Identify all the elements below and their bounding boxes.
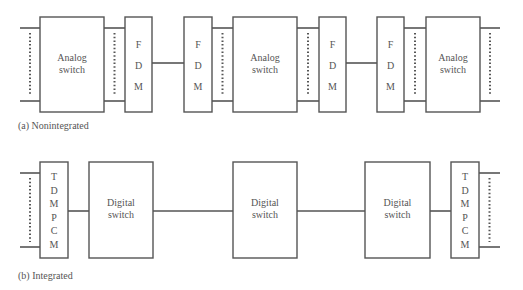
mux-letter: P <box>51 212 57 223</box>
mux-letter: T <box>51 171 57 182</box>
switch-label: Analog <box>438 52 467 63</box>
mux-letter: D <box>135 60 142 71</box>
mux-letter: M <box>461 239 470 250</box>
switch-label: Digital <box>384 197 412 208</box>
switch-block: Digitalswitch <box>365 162 430 258</box>
mux-letter: F <box>330 39 336 50</box>
mux-block: FDM <box>125 17 152 112</box>
mux-letter: D <box>387 60 394 71</box>
switch-block: Analogswitch <box>426 17 480 112</box>
mux-letter: C <box>462 225 469 236</box>
switch-label: switch <box>252 209 278 220</box>
mux-letter: D <box>50 185 57 196</box>
mux-block: TDMPCM <box>451 162 479 258</box>
nonintegrated-diagram: AnalogswitchFDMFDMAnalogswitchFDMFDMAnal… <box>20 17 500 112</box>
mux-block: FDM <box>319 17 346 112</box>
mux-letter: D <box>461 185 468 196</box>
mux-letter: D <box>329 60 336 71</box>
mux-letter: F <box>388 39 394 50</box>
caption-nonintegrated: (a) Nonintegrated <box>18 120 89 132</box>
mux-letter: M <box>50 239 59 250</box>
switch-label: switch <box>108 209 134 220</box>
mux-letter: C <box>51 225 58 236</box>
network-diagram: AnalogswitchFDMFDMAnalogswitchFDMFDMAnal… <box>0 0 523 290</box>
mux-block: FDM <box>184 17 212 112</box>
mux-letter: M <box>194 81 203 92</box>
mux-letter: T <box>462 171 468 182</box>
mux-letter: M <box>461 198 470 209</box>
switch-block: Digitalswitch <box>89 162 153 258</box>
switch-label: switch <box>252 64 278 75</box>
switch-label: switch <box>440 64 466 75</box>
switch-label: Digital <box>251 197 279 208</box>
mux-letter: F <box>136 39 142 50</box>
switch-label: switch <box>384 209 410 220</box>
switch-block: Digitalswitch <box>233 162 297 258</box>
integrated-diagram: TDMPCMDigitalswitchDigitalswitchDigitals… <box>20 162 500 258</box>
mux-block: TDMPCM <box>40 162 68 258</box>
switch-label: Analog <box>250 52 279 63</box>
switch-label: Digital <box>107 197 135 208</box>
mux-letter: M <box>328 81 337 92</box>
switch-label: Analog <box>57 52 86 63</box>
mux-letter: M <box>134 81 143 92</box>
switch-block: Analogswitch <box>233 17 297 112</box>
mux-letter: F <box>195 39 201 50</box>
switch-label: switch <box>59 64 85 75</box>
mux-letter: M <box>50 198 59 209</box>
mux-letter: M <box>386 81 395 92</box>
mux-letter: D <box>194 60 201 71</box>
mux-block: FDM <box>377 17 404 112</box>
switch-block: Analogswitch <box>40 17 104 112</box>
caption-integrated: (b) Integrated <box>18 270 73 282</box>
mux-letter: P <box>462 212 468 223</box>
